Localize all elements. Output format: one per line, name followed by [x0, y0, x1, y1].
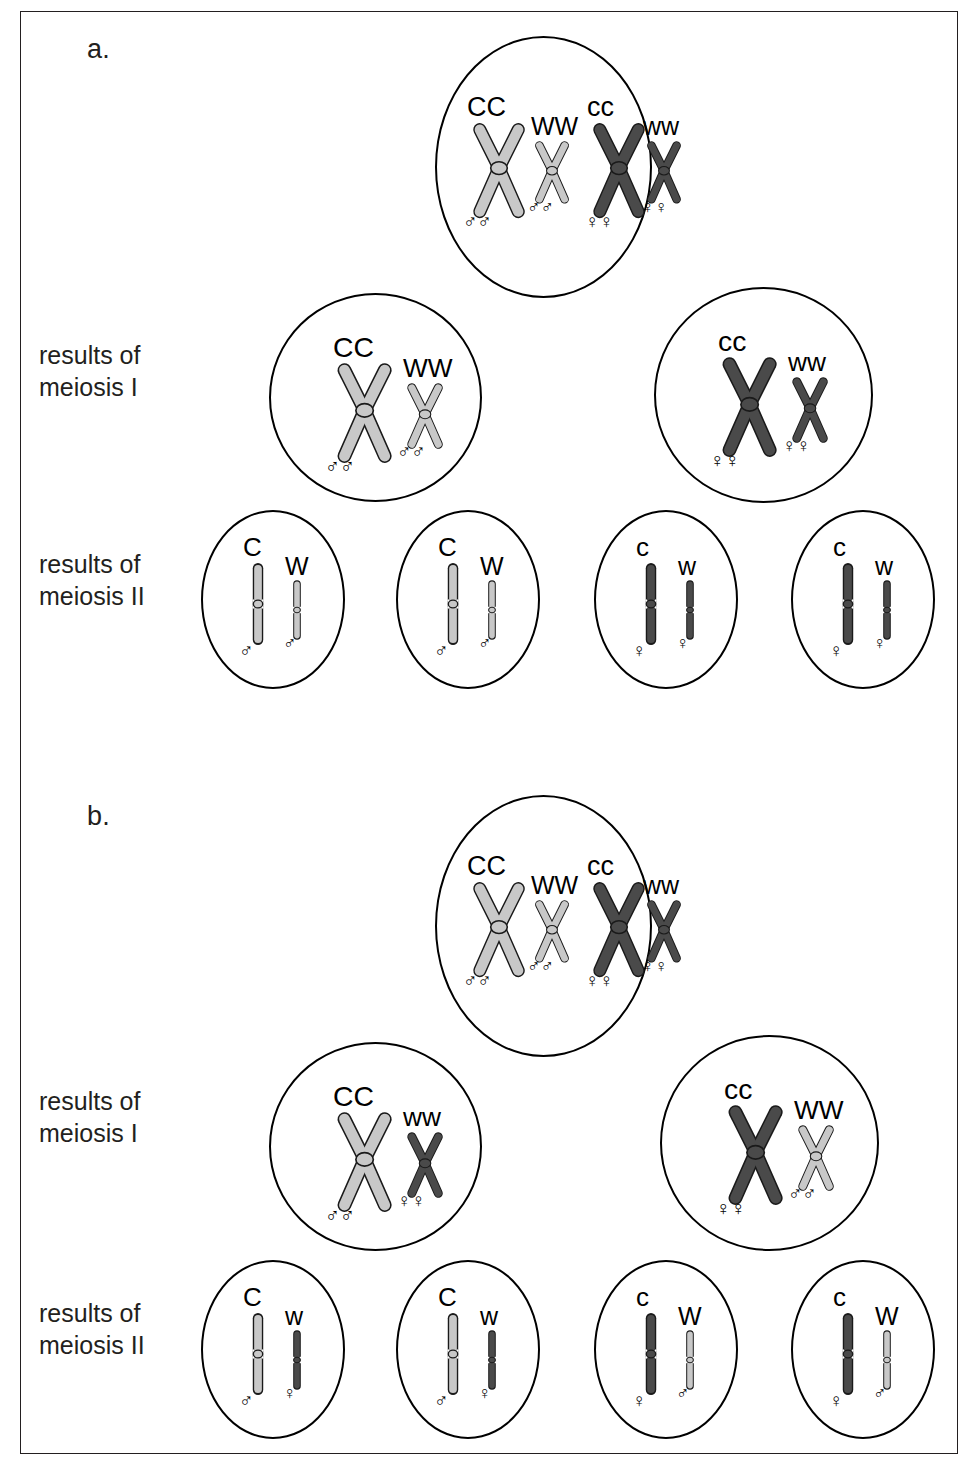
chromosome-rod-icon: [442, 561, 464, 647]
sex-symbol-row: ♀♀: [641, 957, 668, 975]
chromosome-rod-icon: [442, 1311, 464, 1397]
chromosome-rod-icon: [837, 561, 859, 647]
allele-label: cc: [587, 94, 614, 121]
allele-label: w: [285, 1304, 303, 1329]
chromosome-x-icon: [467, 881, 531, 977]
allele-label: CC: [333, 1082, 374, 1110]
sex-symbol-row: ♀♀: [716, 1199, 746, 1219]
meiosis1-cell-right-a: cc♀♀ww♀♀: [654, 287, 873, 503]
allele-label: WW: [531, 114, 578, 139]
chromosome-rod-icon: [289, 1330, 305, 1390]
allele-label: WW: [531, 873, 578, 898]
allele-label: cc: [724, 1075, 752, 1103]
sex-symbol-row: ♂: [239, 641, 253, 660]
parent-cell-b: CC♂♂WW♂♂cc♀♀ww♀♀: [435, 795, 652, 1057]
chromosome-rod-icon: [484, 580, 500, 640]
allele-label: w: [678, 554, 696, 579]
sex-symbol-row: ♂♂: [463, 212, 492, 231]
sex-symbol-row: ♀: [829, 1391, 843, 1410]
chromosome-rod-icon: [289, 580, 305, 640]
chromosome-rod-icon: [640, 1311, 662, 1397]
sex-symbol-row: ♀♀: [585, 212, 614, 231]
chromosome-x-icon: [403, 1131, 447, 1198]
sex-symbol-row: ♀: [676, 634, 690, 652]
chromosome-x-icon: [467, 122, 531, 218]
meiosis1-cell-right-b: cc♀♀WW♂♂: [660, 1035, 879, 1251]
row-label-meiosis-ii: results of meiosis II: [39, 548, 145, 612]
allele-label: ww: [643, 114, 679, 139]
chromosome-rod-icon: [879, 580, 895, 640]
chromosome-rod-icon: [247, 1311, 269, 1397]
allele-label: CC: [333, 333, 374, 361]
allele-label: c: [833, 534, 846, 560]
chromosome-rod-icon: [247, 561, 269, 647]
chromosome-x-icon: [716, 356, 783, 457]
chromosome-rod-icon: [682, 1330, 698, 1390]
allele-label: C: [438, 1284, 457, 1310]
sex-symbol-row: ♀♀: [641, 198, 668, 216]
sex-symbol-row: ♂♂: [463, 971, 492, 990]
chromosome-x-icon: [788, 376, 832, 443]
row-label-meiosis-i: results of meiosis I: [39, 339, 140, 403]
chromosome-rod-icon: [837, 1311, 859, 1397]
sex-symbol-row: ♂: [434, 1391, 448, 1410]
parent-cell-a: CC♂♂WW♂♂cc♀♀ww♀♀: [435, 36, 652, 298]
sex-symbol-row: ♂♂: [788, 1185, 816, 1204]
meiosis2-cell-4-b: c♀W♂: [791, 1260, 935, 1439]
sex-symbol-row: ♀: [829, 641, 843, 660]
chromosome-rod-icon: [640, 561, 662, 647]
sex-symbol-row: ♂: [434, 641, 448, 660]
chromosome-x-icon: [531, 899, 573, 963]
panel-label-b: b.: [87, 801, 110, 832]
sex-symbol-row: ♂: [239, 1391, 253, 1410]
chromosome-rod-icon: [484, 1330, 500, 1390]
allele-label: ww: [788, 349, 826, 375]
sex-symbol-row: ♂: [283, 634, 297, 652]
allele-label: ww: [403, 1104, 441, 1130]
meiosis2-cell-1-a: C♂W♂: [201, 510, 345, 689]
meiosis2-cell-2-b: C♂w♀: [396, 1260, 540, 1439]
allele-label: c: [636, 534, 649, 560]
sex-symbol-row: ♀♀: [710, 451, 740, 471]
sex-symbol-row: ♀♀: [585, 971, 614, 990]
meiosis2-cell-2-a: C♂W♂: [396, 510, 540, 689]
chromosome-x-icon: [331, 1111, 398, 1212]
sex-symbol-row: ♀: [873, 634, 887, 652]
allele-label: cc: [718, 327, 746, 355]
allele-label: C: [438, 534, 457, 560]
figure-border: a.results of meiosis Iresults of meiosis…: [20, 11, 958, 1454]
allele-label: c: [636, 1284, 649, 1310]
meiosis1-cell-left-a: CC♂♂WW♂♂: [269, 293, 482, 502]
sex-symbol-row: ♀: [283, 1384, 297, 1402]
chromosome-x-icon: [643, 899, 685, 963]
sex-symbol-row: ♀: [632, 1391, 646, 1410]
row-label-meiosis-i: results of meiosis I: [39, 1085, 140, 1149]
sex-symbol-row: ♂♂: [325, 457, 355, 477]
meiosis2-cell-1-b: C♂w♀: [201, 1260, 345, 1439]
meiosis2-cell-3-a: c♀w♀: [594, 510, 738, 689]
chromosome-x-icon: [331, 362, 398, 463]
sex-symbol-row: ♀: [478, 1384, 492, 1402]
allele-label: w: [875, 554, 893, 579]
sex-symbol-row: ♂: [873, 1384, 887, 1402]
sex-symbol-row: ♂: [478, 634, 492, 652]
chromosome-x-icon: [531, 140, 573, 204]
sex-symbol-row: ♂♂: [325, 1206, 355, 1226]
allele-label: ww: [643, 873, 679, 898]
sex-symbol-row: ♀♀: [397, 1192, 425, 1211]
meiosis2-cell-4-a: c♀w♀: [791, 510, 935, 689]
meiosis2-cell-3-b: c♀W♂: [594, 1260, 738, 1439]
row-label-meiosis-ii: results of meiosis II: [39, 1297, 145, 1361]
sex-symbol-row: ♂: [676, 1384, 690, 1402]
allele-label: C: [243, 534, 262, 560]
meiosis1-cell-left-b: CC♂♂ww♀♀: [269, 1042, 482, 1251]
allele-label: c: [833, 1284, 846, 1310]
allele-label: CC: [467, 94, 506, 121]
chromosome-rod-icon: [879, 1330, 895, 1390]
sex-symbol-row: ♀: [632, 641, 646, 660]
sex-symbol-row: ♂♂: [527, 957, 554, 975]
allele-label: W: [480, 554, 504, 579]
allele-label: W: [678, 1304, 702, 1329]
allele-label: W: [875, 1304, 899, 1329]
sex-symbol-row: ♂♂: [527, 198, 554, 216]
